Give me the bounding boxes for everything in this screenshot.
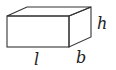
- top-face: [7, 7, 91, 16]
- side-face: [69, 7, 91, 47]
- cuboid: [7, 7, 91, 47]
- front-face: [7, 16, 69, 47]
- length-label: l: [34, 50, 39, 69]
- breadth-label: b: [76, 48, 86, 67]
- cuboid-diagram: l b h: [0, 0, 116, 70]
- height-label: h: [97, 14, 107, 33]
